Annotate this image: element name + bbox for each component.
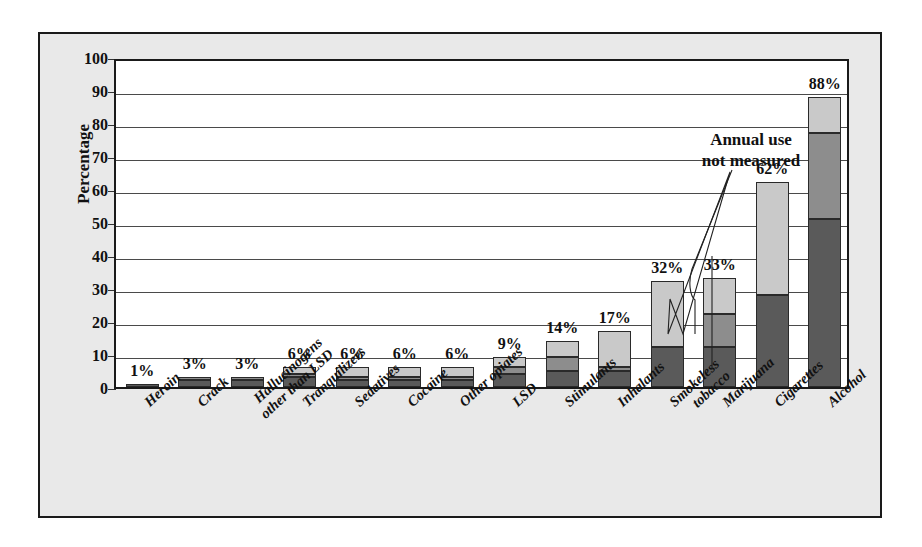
bar-segment-mid (231, 377, 264, 380)
y-tick-label: 80 (62, 117, 108, 133)
annotation-line-1: Annual use (656, 129, 846, 150)
y-axis-ticks: 1009080706050403020100 (50, 59, 108, 389)
bar-segment-light (546, 341, 579, 358)
y-tick-label: 30 (62, 282, 108, 298)
gridline (116, 94, 847, 95)
bar-group[interactable]: 33% (703, 57, 736, 387)
gridline (116, 325, 847, 326)
bar-group[interactable]: 88% (808, 57, 841, 387)
y-tick-label: 90 (62, 84, 108, 100)
y-tick-label: 0 (62, 381, 108, 397)
bar-value-label: 33% (685, 256, 755, 274)
annotation-line-2: not measured (656, 150, 846, 171)
bar-group[interactable]: 3% (178, 57, 211, 387)
bar-group[interactable]: 3% (231, 57, 264, 387)
annotation-label: Annual use not measured (656, 129, 846, 172)
bar-group[interactable]: 14% (546, 57, 579, 387)
y-tick-label: 60 (62, 183, 108, 199)
chart-plot-wrapper: Percentage Twelfth-graders 1009080706050… (40, 34, 884, 520)
gridline (116, 193, 847, 194)
bar-group[interactable]: 17% (598, 57, 631, 387)
y-tick-label: 40 (62, 249, 108, 265)
bar-value-label: 17% (580, 309, 650, 327)
bar-segment-light (808, 97, 841, 133)
y-tick-label: 10 (62, 348, 108, 364)
bar-group[interactable]: 6% (388, 57, 421, 387)
chart-outer-frame: Percentage Twelfth-graders 1009080706050… (38, 32, 882, 518)
bar-segment-light (651, 281, 684, 347)
y-tick-label: 100 (62, 51, 108, 67)
bar-group[interactable]: 32% (651, 57, 684, 387)
bar-segment-light (703, 278, 736, 314)
y-tick-label: 20 (62, 315, 108, 331)
bar-segment-light (756, 182, 789, 294)
x-axis-labels: HeroinCrackHallucinogens other than LSDT… (114, 392, 874, 512)
bar-value-label: 88% (790, 75, 860, 93)
bar-group[interactable]: 62% (756, 57, 789, 387)
plot-area: 1%3%3%6%6%6%6%9%14%17%32%33%62%88% (114, 59, 849, 389)
bar-group[interactable]: 6% (441, 57, 474, 387)
bar-group[interactable]: 6% (336, 57, 369, 387)
y-tick-mark (108, 389, 116, 390)
y-tick-label: 70 (62, 150, 108, 166)
bar-segment-mid (546, 357, 579, 370)
bar-segment-mid (703, 314, 736, 347)
bar-group[interactable]: 9% (493, 57, 526, 387)
gridline (116, 226, 847, 227)
bar-group[interactable]: 1% (126, 57, 159, 387)
gridline (116, 292, 847, 293)
y-tick-label: 50 (62, 216, 108, 232)
gridline (116, 127, 847, 128)
